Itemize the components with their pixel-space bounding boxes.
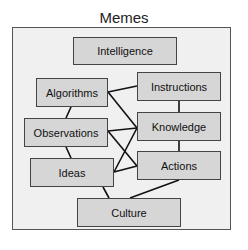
node-ideas: Ideas: [30, 158, 114, 187]
node-label: Algorithms: [46, 87, 98, 99]
edge-ideas-knowledge: [114, 128, 137, 172]
node-label: Instructions: [151, 81, 207, 93]
edge-actions-culture: [130, 180, 179, 198]
node-observations: Observations: [24, 118, 108, 147]
node-instructions: Instructions: [137, 72, 221, 101]
edge-algorithms-instructions: [108, 86, 137, 92]
node-actions: Actions: [137, 151, 221, 180]
node-label: Ideas: [59, 167, 86, 179]
edge-observations-ideas: [66, 147, 71, 158]
edge-algorithms-observations: [66, 107, 71, 118]
edge-algorithms-knowledge: [108, 92, 137, 128]
node-label: Culture: [111, 207, 146, 219]
node-algorithms: Algorithms: [36, 78, 108, 107]
node-label: Knowledge: [152, 121, 206, 133]
node-label: Intelligence: [97, 45, 153, 57]
node-label: Actions: [161, 160, 197, 172]
edge-observations-knowledge: [108, 128, 137, 131]
node-culture: Culture: [77, 198, 181, 227]
edge-ideas-culture: [103, 187, 109, 198]
node-intelligence: Intelligence: [73, 37, 177, 65]
node-label: Observations: [34, 127, 99, 139]
node-knowledge: Knowledge: [137, 112, 221, 141]
